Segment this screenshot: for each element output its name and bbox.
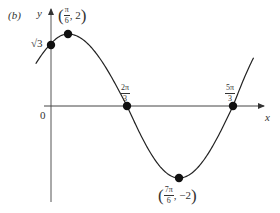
min-y-value: −2 bbox=[179, 190, 191, 201]
zero-1-denominator: 3 bbox=[123, 94, 127, 103]
y-intercept-label: √3 bbox=[31, 38, 43, 49]
zero-2-denominator: 3 bbox=[228, 94, 232, 103]
point-maximum-dot bbox=[64, 30, 72, 38]
point-zero-2-dot bbox=[229, 102, 237, 110]
part-label: (b) bbox=[8, 10, 21, 21]
graph-figure: (b) y x 0 √3 ( π6 , 2 ) 2π3 5π3 ( 7π6 , … bbox=[0, 0, 280, 213]
zero-1-numerator: 2π bbox=[120, 84, 130, 94]
point-y-intercept-dot bbox=[47, 41, 55, 49]
point-minimum-dot bbox=[175, 174, 183, 182]
origin-label: 0 bbox=[40, 110, 46, 121]
point-zero-1-dot bbox=[123, 102, 131, 110]
y-axis-label: y bbox=[37, 8, 42, 19]
minimum-point-label: ( 7π6 , −2 ) bbox=[158, 186, 197, 205]
zero-1-label: 2π3 bbox=[120, 84, 130, 103]
min-x-numerator: 7π bbox=[164, 186, 174, 196]
x-axis-label: x bbox=[265, 112, 270, 123]
min-x-denominator: 6 bbox=[167, 196, 171, 205]
zero-2-numerator: 5π bbox=[225, 84, 235, 94]
max-x-denominator: 6 bbox=[65, 16, 69, 25]
maximum-point-label: ( π6 , 2 ) bbox=[58, 6, 86, 25]
zero-2-label: 5π3 bbox=[225, 84, 235, 103]
graph-canvas bbox=[0, 0, 280, 213]
